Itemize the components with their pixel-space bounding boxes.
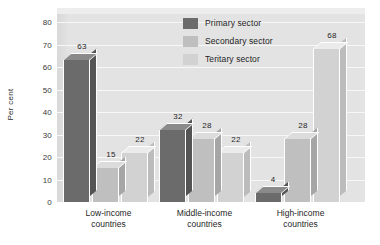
bar-value-label: 22 xyxy=(231,135,240,144)
bar-chart: 63152232282242868 Per cent 8070605040302… xyxy=(0,0,380,245)
y-axis-tick-60: 60 xyxy=(6,63,52,72)
legend-swatch-icon xyxy=(183,18,198,29)
x-axis-label-line: Low-income xyxy=(86,208,132,219)
bar-side-face xyxy=(186,118,193,196)
bar-value-label: 28 xyxy=(202,121,211,130)
x-axis-label-line: Middle-income xyxy=(177,208,232,219)
bar-value-label: 22 xyxy=(135,135,144,144)
bar-3-1 xyxy=(255,193,282,202)
bar-front-face xyxy=(284,139,311,202)
y-axis-tick-0: 0 xyxy=(6,198,52,207)
x-axis-label-line: countries xyxy=(277,219,325,230)
bar-front-face xyxy=(63,60,90,202)
y-axis-tick-80: 80 xyxy=(6,18,52,27)
bar-value-label: 63 xyxy=(77,42,86,51)
y-axis-tick-30: 30 xyxy=(6,130,52,139)
bar-side-face xyxy=(90,48,97,196)
legend: Primary sectorSecondary sectorTeritary s… xyxy=(183,14,273,68)
bar-front-face xyxy=(159,130,186,202)
x-axis-label-2: Middle-incomecountries xyxy=(177,208,232,230)
x-axis-label-1: Low-incomecountries xyxy=(86,208,132,230)
y-axis: Per cent 80706050403020100 xyxy=(0,0,52,245)
legend-label: Secondary sector xyxy=(205,36,273,46)
y-axis-tick-50: 50 xyxy=(6,85,52,94)
legend-item-2[interactable]: Secondary sector xyxy=(183,32,273,50)
y-axis-tick-20: 20 xyxy=(6,153,52,162)
bar-value-label: 28 xyxy=(298,121,307,130)
y-axis-tick-70: 70 xyxy=(6,40,52,49)
bar-value-label: 15 xyxy=(106,150,115,159)
legend-label: Primary sector xyxy=(205,18,261,28)
bar-3-2 xyxy=(284,139,311,202)
bar-side-face xyxy=(340,37,347,196)
bar-value-label: 4 xyxy=(271,175,276,184)
x-axis-label-line: countries xyxy=(86,219,132,230)
bar-value-label: 68 xyxy=(327,31,336,40)
bar-1-1 xyxy=(63,60,90,202)
y-axis-tick-40: 40 xyxy=(6,108,52,117)
x-axis-label-3: High-incomecountries xyxy=(277,208,325,230)
bar-value-label: 32 xyxy=(173,112,182,121)
x-axis-label-line: High-income xyxy=(277,208,325,219)
x-axis-label-line: countries xyxy=(177,219,232,230)
legend-item-3[interactable]: Teritary sector xyxy=(183,50,273,68)
bar-front-face xyxy=(255,193,282,202)
y-axis-tick-10: 10 xyxy=(6,175,52,184)
legend-swatch-icon xyxy=(183,54,198,65)
legend-label: Teritary sector xyxy=(205,54,260,64)
bar-2-1 xyxy=(159,130,186,202)
legend-item-1[interactable]: Primary sector xyxy=(183,14,273,32)
legend-swatch-icon xyxy=(183,36,198,47)
